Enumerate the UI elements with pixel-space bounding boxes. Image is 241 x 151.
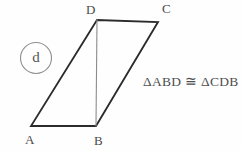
vertex-label-a: A [25,133,34,146]
vertex-label-c: C [162,2,171,15]
vertex-label-d: D [86,3,95,16]
item-marker-letter: d [20,42,52,74]
diagonal-db [96,20,97,126]
item-marker: d [20,42,52,74]
congruence-statement: ΔABD ≅ ΔCDB [143,73,239,90]
figure-canvas: d D C A B ΔABD ≅ ΔCDB [0,0,241,151]
vertex-label-b: B [94,134,103,147]
